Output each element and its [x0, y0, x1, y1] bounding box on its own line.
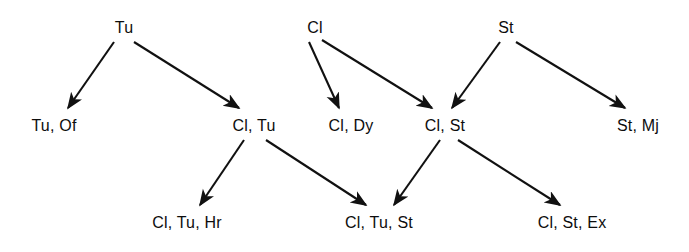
node-tu_of: Tu, Of [31, 118, 76, 134]
edge-st-to-st_mj [516, 42, 625, 108]
edge-tu-to-tu_of [68, 42, 114, 108]
node-st: St [498, 20, 514, 36]
node-cl_st_ex: Cl, St, Ex [538, 215, 607, 231]
edge-cl-to-cl_st [322, 40, 432, 108]
node-cl_tu: Cl, Tu [233, 118, 276, 134]
edge-cl_tu-to-cl_tu_hr [200, 140, 244, 205]
diagram-canvas: TuClStTu, OfCl, TuCl, DyCl, StSt, MjCl, … [0, 0, 689, 252]
edge-tu-to-cl_tu [134, 42, 239, 108]
node-cl: Cl [307, 20, 323, 36]
node-st_mj: St, Mj [617, 118, 659, 134]
edge-st-to-cl_st [452, 42, 500, 108]
edge-cl-to-cl_dy [309, 42, 339, 108]
edge-cl_st-to-cl_tu_st [394, 140, 440, 205]
node-tu: Tu [115, 20, 133, 36]
node-cl_tu_hr: Cl, Tu, Hr [152, 215, 222, 231]
edge-cl_tu-to-cl_tu_st [266, 140, 366, 205]
node-cl_dy: Cl, Dy [329, 118, 374, 134]
node-cl_st: Cl, St [425, 118, 465, 134]
node-cl_tu_st: Cl, Tu, St [345, 215, 413, 231]
edge-cl_st-to-cl_st_ex [458, 140, 560, 205]
